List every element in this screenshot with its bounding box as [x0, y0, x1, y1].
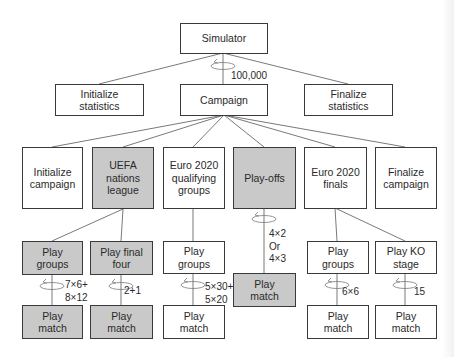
- node-label: Initialize campaign: [30, 166, 76, 191]
- node-label: Finalize statistics: [328, 88, 368, 113]
- page-edge-shadow: [442, 0, 454, 357]
- node-nl-final-four-play-match: Play match: [90, 305, 153, 339]
- node-label: Play KO stage: [387, 245, 426, 270]
- simulation-hierarchy-diagram: Simulator 100,000 Initialize statistics …: [0, 0, 454, 357]
- loop-count-playoffs: 4×2 Or 4×3: [269, 228, 286, 266]
- node-simulator: Simulator: [180, 23, 268, 54]
- node-label: Play groups: [322, 245, 354, 270]
- node-f-groups-play-match: Play match: [307, 305, 369, 339]
- node-label: Euro 2020 finals: [311, 166, 359, 191]
- node-initialize-campaign: Initialize campaign: [22, 147, 83, 209]
- node-label: UEFA nations league: [106, 159, 140, 197]
- node-uefa-nations-league: UEFA nations league: [92, 147, 154, 209]
- node-play-offs: Play-offs: [233, 147, 296, 209]
- loop-count-nl-final-four: 2+1: [124, 285, 141, 298]
- node-finalize-statistics: Finalize statistics: [304, 84, 393, 116]
- node-euro-2020-finals: Euro 2020 finals: [304, 147, 367, 209]
- node-playoffs-play-match: Play match: [233, 273, 296, 307]
- node-label: Play match: [38, 310, 67, 335]
- node-label: Play match: [107, 310, 136, 335]
- node-label: Euro 2020 qualifying groups: [170, 159, 218, 197]
- node-f-play-groups: Play groups: [307, 241, 369, 274]
- node-q-play-match: Play match: [163, 305, 225, 339]
- loop-count-nl-groups: 7×6+ 8×12: [65, 279, 88, 304]
- node-label: Simulator: [202, 32, 246, 45]
- node-finalize-campaign: Finalize campaign: [375, 147, 437, 209]
- node-label: Play match: [392, 310, 421, 335]
- loop-count-simulator: 100,000: [231, 70, 267, 83]
- node-label: Play groups: [178, 245, 210, 270]
- node-nl-groups-play-match: Play match: [22, 305, 83, 339]
- loop-count-f-ko: 15: [414, 286, 425, 299]
- node-label: Play match: [250, 278, 279, 303]
- node-label: Play match: [324, 310, 353, 335]
- node-campaign: Campaign: [180, 84, 268, 116]
- node-label: Play final four: [100, 246, 143, 271]
- node-euro-2020-qualifying-groups: Euro 2020 qualifying groups: [163, 147, 225, 209]
- node-label: Play-offs: [244, 172, 285, 185]
- node-nl-play-groups: Play groups: [22, 241, 83, 275]
- loop-count-q-groups: 5×30+ 5×20: [205, 281, 233, 306]
- node-label: Campaign: [200, 94, 248, 107]
- node-label: Initialize statistics: [79, 88, 119, 113]
- node-q-play-groups: Play groups: [163, 241, 225, 274]
- node-initialize-statistics: Initialize statistics: [55, 84, 144, 116]
- node-nl-play-final-four: Play final four: [90, 241, 153, 275]
- node-label: Finalize campaign: [383, 166, 429, 191]
- node-f-ko-play-match: Play match: [375, 305, 437, 339]
- node-label: Play groups: [36, 246, 68, 271]
- loop-count-f-groups: 6×6: [342, 286, 359, 299]
- node-label: Play match: [180, 310, 209, 335]
- node-f-play-ko-stage: Play KO stage: [375, 241, 437, 274]
